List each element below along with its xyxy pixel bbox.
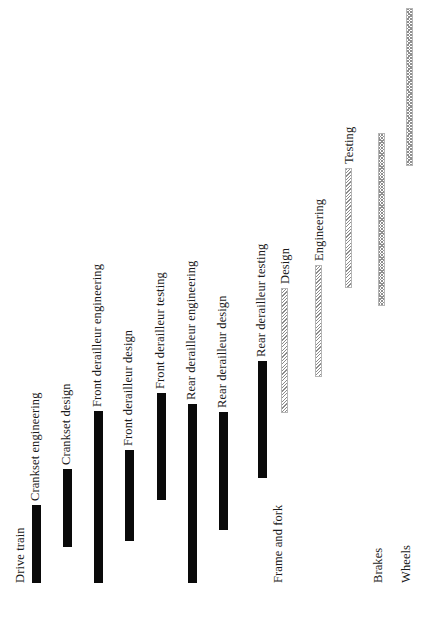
task-label-rear-derailleur-engineering: Rear derailleur engineering — [185, 261, 198, 400]
group-label-brakes: Brakes — [372, 548, 385, 583]
task-bar-rear-derailleur-engineering — [188, 404, 197, 583]
task-label-crankset-engineering: Crankset engineering — [29, 392, 42, 501]
group-bar-wheels — [406, 8, 413, 166]
legend-bar-testing — [345, 168, 352, 288]
task-bar-front-derailleur-testing — [157, 393, 166, 500]
group-label-drive-train: Drive train — [14, 527, 27, 583]
group-label-frame-and-fork: Frame and fork — [272, 505, 285, 583]
task-label-front-derailleur-design: Front derailleur design — [122, 330, 135, 446]
legend-bar-engineering — [315, 265, 322, 377]
task-label-crankset-design: Crankset design — [60, 383, 73, 465]
legend-bar-design — [281, 288, 288, 413]
group-label-wheels: Wheels — [400, 545, 413, 583]
legend-label-design: Design — [279, 248, 292, 284]
task-label-front-derailleur-testing: Front derailleur testing — [154, 272, 167, 389]
task-label-rear-derailleur-design: Rear derailleur design — [216, 295, 229, 408]
task-bar-front-derailleur-engineering — [94, 411, 103, 583]
task-bar-rear-derailleur-testing — [258, 361, 267, 478]
group-bar-brakes — [378, 133, 385, 306]
legend-label-testing: Testing — [343, 127, 356, 164]
task-label-rear-derailleur-testing: Rear derailleur testing — [255, 244, 268, 357]
task-bar-crankset-design — [63, 469, 72, 547]
task-bar-rear-derailleur-design — [219, 412, 228, 530]
task-label-front-derailleur-engineering: Front derailleur engineering — [91, 264, 104, 407]
task-bar-front-derailleur-design — [125, 450, 134, 541]
legend-label-engineering: Engineering — [313, 199, 326, 261]
task-bar-crankset-engineering — [32, 505, 41, 583]
gantt-chart: Drive train Crankset engineering Crankse… — [0, 0, 427, 638]
